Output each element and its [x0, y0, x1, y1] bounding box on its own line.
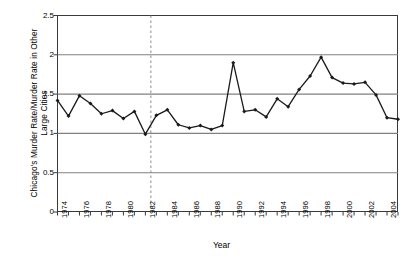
x-tick-label: 2000	[346, 201, 354, 218]
x-tick-label: 1978	[105, 201, 113, 218]
x-axis-title-text: Year	[213, 240, 230, 250]
x-tick-label: 1986	[193, 201, 201, 218]
x-tick-label: 1980	[127, 201, 135, 218]
x-tick-label: 1988	[214, 201, 222, 218]
x-tick-label: 1984	[171, 201, 179, 218]
x-tick-label: 1996	[302, 201, 310, 218]
x-tick-label: 1992	[258, 201, 266, 218]
x-tick-label: 2004	[390, 201, 398, 218]
x-tick-label: 1976	[83, 201, 91, 218]
x-axis-title: Year	[0, 240, 419, 250]
x-tick-label: 2002	[368, 201, 376, 218]
x-tick-label: 1974	[61, 201, 69, 218]
chart-container: Chicago's Murder Rate/Murder Rate in Oth…	[0, 0, 419, 261]
x-axis-tick-labels: 1974197619781980198219841986198819901992…	[0, 0, 419, 261]
x-tick-label: 1994	[280, 201, 288, 218]
x-tick-label: 1990	[236, 201, 244, 218]
x-tick-label: 1998	[324, 201, 332, 218]
x-tick-label: 1982	[149, 201, 157, 218]
